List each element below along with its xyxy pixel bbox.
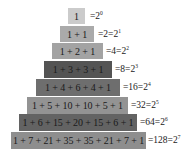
row-4-sum: =16=24 [123,83,151,93]
row-0-sum: =20 [90,12,103,22]
row-0-sum-text: =2 [90,11,100,21]
row-1-sum-text: =2=2 [98,29,118,39]
row-2-exponent: 2 [126,45,129,51]
triangle-row-6: 1 + 6 + 15 + 20 + 15 + 6 + 1 [19,114,137,131]
row-1-sum: =2=21 [98,30,121,40]
row-7-exponent: 7 [178,134,181,140]
row-6-exponent: 6 [165,116,168,122]
row-6-sum: =64=26 [140,118,168,128]
triangle-row-4: 1 + 4 + 6 + 4 + 1 [36,79,120,96]
row-3-sum-text: =8=2 [115,64,135,74]
row-6-sum-text: =64=2 [140,117,165,127]
row-7-sum: =128=27 [148,136,180,146]
row-5-sum: =32=25 [131,101,159,111]
triangle-row-7: 1 + 7 + 21 + 35 + 35 + 21 + 7 + 1 [11,132,146,149]
triangle-row-3: 1 + 3 + 3 + 1 [44,61,112,78]
triangle-row-2: 1 + 2 + 1 [52,43,103,59]
row-7-sum-text: =128=2 [148,135,178,145]
triangle-row-5: 1 + 5 + 10 + 10 + 5 + 1 [27,97,128,114]
row-5-sum-text: =32=2 [131,100,156,110]
row-3-sum: =8=23 [115,65,138,75]
row-1-exponent: 1 [118,28,121,34]
triangle-row-1: 1 + 1 [60,26,94,42]
row-3-exponent: 3 [135,63,138,69]
row-2-sum-text: =4=2 [106,46,126,56]
row-5-exponent: 5 [156,99,159,105]
row-4-exponent: 4 [148,81,151,87]
triangle-row-0: 1 [68,8,85,24]
row-2-sum: =4=22 [106,47,129,57]
row-0-exponent: 0 [100,10,103,16]
row-4-sum-text: =16=2 [123,82,148,92]
